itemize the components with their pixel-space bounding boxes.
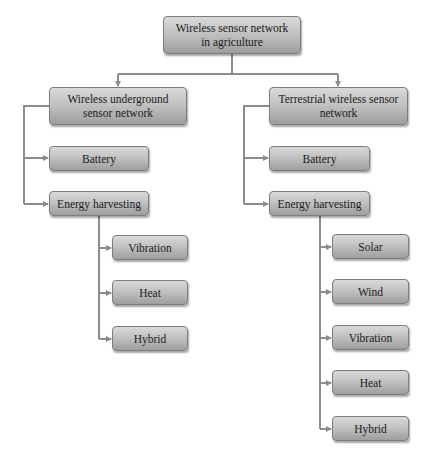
left-source-vibration-label: Vibration [128, 241, 171, 255]
underground-label-line2: sensor network [67, 106, 168, 120]
right-source-hybrid: Hybrid [332, 416, 409, 441]
left-source-hybrid-label: Hybrid [134, 332, 167, 346]
right-source-solar-label: Solar [358, 240, 382, 254]
right-energy-harvesting-node: Energy harvesting [269, 191, 370, 216]
left-energy-harvesting-label: Energy harvesting [57, 197, 141, 211]
right-source-wind-label: Wind [358, 285, 383, 299]
right-source-vibration-label: Vibration [349, 331, 392, 345]
left-battery-node: Battery [49, 146, 149, 171]
wireless-underground-node: Wireless underground sensor network [49, 87, 187, 125]
right-source-hybrid-label: Hybrid [354, 422, 387, 436]
right-source-heat-label: Heat [360, 376, 382, 390]
left-source-heat-label: Heat [139, 286, 161, 300]
right-source-vibration: Vibration [332, 325, 409, 350]
right-source-wind: Wind [332, 279, 409, 304]
left-source-heat: Heat [112, 280, 188, 305]
left-source-hybrid: Hybrid [112, 326, 188, 351]
wsn-agriculture-diagram: Wireless sensor network in agriculture W… [0, 0, 431, 460]
terrestrial-label-line1: Terrestrial wireless sensor [279, 92, 399, 106]
underground-label-line1: Wireless underground [67, 92, 168, 106]
left-energy-harvesting-node: Energy harvesting [49, 191, 149, 216]
left-source-vibration: Vibration [112, 235, 188, 260]
right-battery-node: Battery [269, 146, 370, 171]
right-source-heat: Heat [332, 370, 409, 395]
terrestrial-wsn-node: Terrestrial wireless sensor network [269, 87, 408, 125]
right-source-solar: Solar [332, 234, 409, 259]
left-battery-label: Battery [82, 152, 116, 166]
root-label-line1: Wireless sensor network [176, 21, 289, 35]
root-label-line2: in agriculture [176, 35, 289, 49]
terrestrial-label-line2: network [279, 106, 399, 120]
root-node: Wireless sensor network in agriculture [163, 16, 301, 54]
right-energy-harvesting-label: Energy harvesting [278, 197, 362, 211]
right-battery-label: Battery [303, 152, 337, 166]
